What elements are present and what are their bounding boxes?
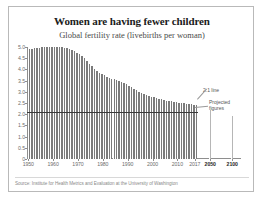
annotation-projected-leader bbox=[195, 106, 208, 108]
annotation-projected-line1: Projected bbox=[209, 99, 230, 105]
x-tick-label: 1960 bbox=[48, 161, 59, 167]
replacement-level-line bbox=[27, 112, 198, 113]
bar-historical bbox=[195, 105, 197, 159]
y-tick-mark bbox=[25, 69, 27, 70]
x-tick-mark bbox=[28, 159, 29, 161]
x-tick-label: 1980 bbox=[97, 161, 108, 167]
y-tick-label: 3.5 bbox=[18, 78, 25, 84]
bar-projected bbox=[231, 116, 233, 159]
y-tick-label: 4.5 bbox=[18, 55, 25, 61]
x-tick-label: 2017 bbox=[189, 161, 200, 167]
y-tick-mark bbox=[25, 92, 27, 93]
x-tick-mark bbox=[78, 159, 79, 161]
plot-area: 5.04.54.03.53.02.52.01.51.00.50 19501960… bbox=[27, 47, 241, 159]
x-tick-mark bbox=[210, 159, 211, 161]
x-tick-label: 1950 bbox=[23, 161, 34, 167]
y-tick-label: 2.5 bbox=[18, 100, 25, 106]
source-text: Institute for Health Metrics and Evaluat… bbox=[32, 181, 178, 186]
chart-figure: Women are having fewer children Global f… bbox=[8, 6, 254, 192]
x-tick-mark bbox=[103, 159, 104, 161]
source-note: Source: Institute for Health Metrics and… bbox=[15, 177, 249, 186]
y-tick-label: 0.5 bbox=[18, 145, 25, 151]
x-tick-mark bbox=[128, 159, 129, 161]
x-tick-label: 2100 bbox=[227, 161, 238, 167]
y-tick-mark bbox=[25, 159, 27, 160]
x-tick-mark bbox=[153, 159, 154, 161]
annotation-projected-figures: Projected figures bbox=[209, 99, 230, 112]
annotation-projected-line2: figures bbox=[209, 105, 224, 111]
x-tick-mark bbox=[232, 159, 233, 161]
y-tick-mark bbox=[25, 125, 27, 126]
x-tick-label: 1990 bbox=[122, 161, 133, 167]
x-tick-mark bbox=[53, 159, 54, 161]
y-tick-mark bbox=[25, 148, 27, 149]
y-tick-label: 1.5 bbox=[18, 122, 25, 128]
x-tick-mark bbox=[177, 159, 178, 161]
y-tick-mark bbox=[25, 137, 27, 138]
y-tick-mark bbox=[25, 114, 27, 115]
bar-projected bbox=[209, 110, 211, 159]
x-tick-label: 2010 bbox=[172, 161, 183, 167]
y-tick-mark bbox=[25, 81, 27, 82]
x-tick-label: 2000 bbox=[147, 161, 158, 167]
y-tick-label: 5.0 bbox=[18, 44, 25, 50]
y-tick-label: 4.0 bbox=[18, 66, 25, 72]
y-tick-label: 3.0 bbox=[18, 89, 25, 95]
chart-subtitle: Global fertility rate (livebirths per wo… bbox=[9, 30, 255, 40]
x-tick-label: 2050 bbox=[205, 161, 216, 167]
chart-title: Women are having fewer children bbox=[9, 15, 255, 27]
y-tick-label: 2.0 bbox=[18, 111, 25, 117]
x-tick-mark bbox=[195, 159, 196, 161]
y-tick-mark bbox=[25, 47, 27, 48]
x-tick-label: 1970 bbox=[72, 161, 83, 167]
source-prefix: Source: bbox=[15, 181, 30, 186]
y-tick-mark bbox=[25, 103, 27, 104]
y-tick-label: 1.0 bbox=[18, 134, 25, 140]
y-tick-mark bbox=[25, 58, 27, 59]
annotation-21-line-leader bbox=[197, 89, 207, 100]
